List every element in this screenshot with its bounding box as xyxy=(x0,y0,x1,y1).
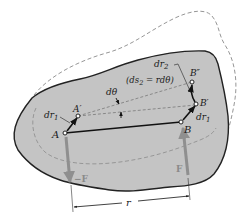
point-A xyxy=(63,131,67,135)
label-B-double-prime: B″ xyxy=(189,68,201,78)
label-A: A xyxy=(51,129,59,140)
dim-line-r-left xyxy=(74,203,122,207)
point-B xyxy=(179,120,183,124)
label-B: B xyxy=(183,124,191,135)
label-dtheta: dθ xyxy=(106,87,118,97)
label-B-prime: B′ xyxy=(199,98,209,108)
label-distance-r: r xyxy=(126,197,132,208)
label-A-prime: A′ xyxy=(72,104,82,114)
label-force-F: F xyxy=(176,164,183,174)
couple-rotation-diagram: A A′ B B′ B″ dr1 dr1 dr2 (ds2 = rdθ) dθ … xyxy=(0,0,241,219)
dim-extension-left xyxy=(71,185,73,212)
dim-line-r-right xyxy=(138,196,189,201)
point-B-double-prime xyxy=(190,80,194,84)
point-A-prime xyxy=(76,114,80,118)
point-B-prime xyxy=(194,102,198,106)
label-force-neg-F: −F xyxy=(74,174,89,184)
